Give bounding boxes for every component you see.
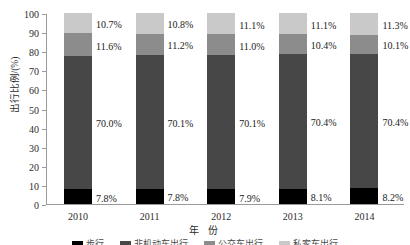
x-axis-tick-label: 2010 bbox=[68, 211, 88, 222]
bar-segment-公交车出行 bbox=[136, 34, 164, 55]
y-axis-tick-label: 60 bbox=[29, 85, 39, 96]
bar-segment-非机动车出行 bbox=[279, 54, 307, 188]
y-axis-tick bbox=[42, 52, 46, 53]
bar-segment-公交车出行 bbox=[279, 34, 307, 54]
y-axis-tick bbox=[42, 205, 46, 206]
bar-segment-非机动车出行 bbox=[350, 54, 378, 188]
bar-segment-公交车出行 bbox=[350, 35, 378, 54]
bar-value-label: 70.0% bbox=[96, 118, 122, 129]
y-axis-tick-label: 90 bbox=[29, 28, 39, 39]
bar-segment-私家车出行 bbox=[64, 13, 92, 33]
x-axis-tick-label: 2014 bbox=[354, 211, 374, 222]
y-axis-title: 出行比例/(%) bbox=[7, 35, 21, 135]
y-axis-tick bbox=[42, 186, 46, 187]
bar-value-label: 10.4% bbox=[311, 40, 337, 51]
y-axis-tick bbox=[42, 129, 46, 130]
legend-label: 步行 bbox=[86, 237, 104, 245]
chart-legend: 步行非机动车出行公交车出行私家车出行 bbox=[0, 237, 410, 245]
bar-segment-私家车出行 bbox=[350, 13, 378, 35]
y-axis-tick bbox=[42, 167, 46, 168]
bar-2013[interactable] bbox=[279, 13, 307, 204]
bar-value-label: 7.8% bbox=[168, 192, 189, 203]
bar-value-label: 70.4% bbox=[311, 117, 337, 128]
bar-value-label: 11.3% bbox=[382, 19, 407, 30]
legend-swatch bbox=[120, 241, 131, 245]
x-axis-line bbox=[46, 204, 404, 205]
legend-item[interactable]: 步行 bbox=[72, 237, 104, 245]
bar-2010[interactable] bbox=[64, 13, 92, 204]
y-axis-tick bbox=[42, 33, 46, 34]
y-axis-tick bbox=[42, 148, 46, 149]
bar-value-label: 8.2% bbox=[382, 192, 403, 203]
bar-value-label: 11.1% bbox=[239, 19, 264, 30]
y-axis-tick-label: 50 bbox=[29, 104, 39, 115]
bar-segment-步行 bbox=[64, 189, 92, 204]
legend-item[interactable]: 私家车出行 bbox=[279, 237, 338, 245]
y-axis-tick-label: 20 bbox=[29, 161, 39, 172]
bar-value-label: 10.1% bbox=[382, 40, 408, 51]
bar-segment-步行 bbox=[136, 189, 164, 204]
bar-segment-私家车出行 bbox=[136, 13, 164, 34]
bar-segment-私家车出行 bbox=[207, 13, 235, 34]
bar-value-label: 11.0% bbox=[239, 40, 264, 51]
legend-label: 非机动车出行 bbox=[134, 237, 188, 245]
y-axis-tick-label: 100 bbox=[24, 9, 39, 20]
bar-segment-步行 bbox=[207, 189, 235, 204]
y-axis-tick bbox=[42, 110, 46, 111]
x-axis-tick-label: 2011 bbox=[140, 211, 160, 222]
plot-area: 010203040506070809010010.7%11.6%70.0%7.8… bbox=[46, 14, 404, 205]
legend-label: 公交车出行 bbox=[218, 237, 263, 245]
legend-item[interactable]: 公交车出行 bbox=[204, 237, 263, 245]
bar-value-label: 8.1% bbox=[311, 192, 332, 203]
y-axis-tick-label: 0 bbox=[34, 200, 39, 211]
bar-2011[interactable] bbox=[136, 13, 164, 204]
bar-value-label: 11.1% bbox=[311, 19, 336, 30]
bar-value-label: 70.1% bbox=[168, 117, 194, 128]
x-axis-tick-label: 2013 bbox=[283, 211, 303, 222]
bar-value-label: 11.2% bbox=[168, 40, 193, 51]
bar-value-label: 10.7% bbox=[96, 19, 122, 30]
y-axis-tick-label: 70 bbox=[29, 66, 39, 77]
y-axis-tick-label: 40 bbox=[29, 123, 39, 134]
bar-2012[interactable] bbox=[207, 13, 235, 204]
legend-swatch bbox=[72, 241, 83, 245]
bar-value-label: 7.9% bbox=[239, 192, 260, 203]
bar-value-label: 70.1% bbox=[239, 118, 265, 129]
legend-label: 私家车出行 bbox=[293, 237, 338, 245]
bar-segment-非机动车出行 bbox=[136, 55, 164, 189]
y-axis-tick-label: 80 bbox=[29, 47, 39, 58]
bar-value-label: 70.4% bbox=[382, 117, 408, 128]
bar-segment-步行 bbox=[279, 189, 307, 204]
bar-segment-私家车出行 bbox=[279, 13, 307, 34]
y-axis-line bbox=[46, 14, 47, 205]
x-axis-title: 年 份 bbox=[0, 222, 410, 237]
x-axis-tick-label: 2012 bbox=[211, 211, 231, 222]
bar-2014[interactable] bbox=[350, 13, 378, 204]
bar-value-label: 7.8% bbox=[96, 192, 117, 203]
legend-swatch bbox=[279, 241, 290, 245]
y-axis-tick bbox=[42, 71, 46, 72]
bar-segment-公交车出行 bbox=[207, 34, 235, 55]
y-axis-tick-label: 10 bbox=[29, 180, 39, 191]
legend-swatch bbox=[204, 241, 215, 245]
bar-value-label: 10.8% bbox=[168, 19, 194, 30]
legend-item[interactable]: 非机动车出行 bbox=[120, 237, 188, 245]
bar-segment-非机动车出行 bbox=[207, 55, 235, 189]
bar-value-label: 11.6% bbox=[96, 40, 121, 51]
y-axis-tick bbox=[42, 14, 46, 15]
y-axis-tick bbox=[42, 90, 46, 91]
bar-segment-公交车出行 bbox=[64, 33, 92, 55]
bar-segment-步行 bbox=[350, 188, 378, 204]
bar-segment-非机动车出行 bbox=[64, 56, 92, 190]
y-axis-tick-label: 30 bbox=[29, 142, 39, 153]
